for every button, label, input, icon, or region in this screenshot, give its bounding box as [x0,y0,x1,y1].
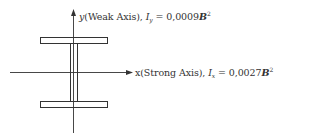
y-axis-label: y(Weak Axis), Iy = 0,0009B2 [79,11,211,23]
x-moment-exponent: 2 [269,66,273,73]
y-axis-arrow-icon [71,9,76,16]
x-axis-label: x(Strong Axis), Ix = 0,0027B2 [135,67,273,79]
y-moment-variable: B [199,11,207,22]
bottom-flange [41,102,108,108]
top-flange [41,38,108,44]
y-axis-description: (Weak Axis), [84,11,145,22]
y-equals: = [153,11,167,22]
x-axis-description: (Strong Axis), [140,67,208,78]
y-moment-value: 0,0009 [166,11,199,22]
x-equals: = [215,67,229,78]
x-axis-arrow-icon [126,70,133,75]
y-moment-exponent: 2 [207,10,211,17]
x-moment-value: 0,0027 [229,67,262,78]
